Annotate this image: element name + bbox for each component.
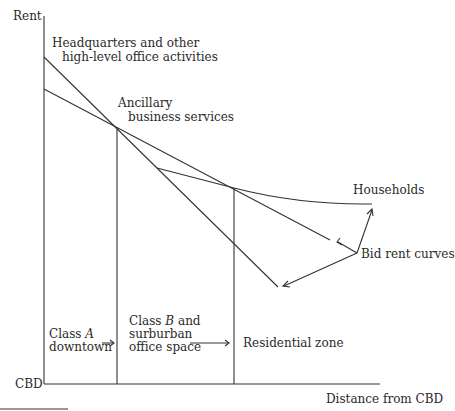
class-a-label-line2: downtown: [49, 341, 112, 354]
ancillary-label-line2: business services: [128, 111, 234, 124]
origin-label: CBD: [15, 378, 43, 391]
households-label: Households: [353, 184, 424, 197]
ancillary-label: Ancillary: [118, 97, 172, 110]
class-b-label-line3: office space: [129, 341, 201, 354]
residential-zone-label: Residential zone: [243, 337, 344, 350]
bid-rent-curves-label: Bid rent curves: [361, 248, 455, 261]
headquarters-bid-rent-curve: [44, 57, 278, 287]
households-bid-rent-curve: [157, 168, 372, 204]
arrow-to-headquarters: [284, 253, 357, 286]
arrowhead-ancillary: [337, 238, 342, 245]
x-axis-label: Distance from CBD: [326, 393, 443, 406]
headquarters-label-line2: high-level office activities: [62, 51, 218, 64]
arrow-to-ancillary: [338, 242, 357, 253]
y-axis-label: Rent: [13, 10, 42, 23]
headquarters-label: Headquarters and other: [52, 37, 199, 50]
